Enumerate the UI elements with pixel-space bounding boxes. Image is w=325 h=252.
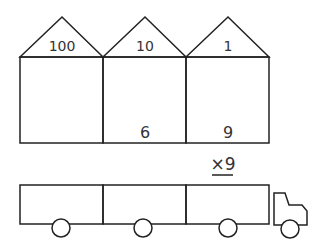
place-label-hundreds: 100 xyxy=(49,38,76,54)
place-label-tens: 10 xyxy=(136,38,154,54)
digit-ones: 9 xyxy=(223,123,233,142)
wheel-icon xyxy=(281,220,299,238)
wheel-icon xyxy=(219,219,237,237)
house-hundreds xyxy=(20,57,103,143)
truck-compartment-3 xyxy=(186,185,269,224)
place-value-diagram: 100 10 1 6 9 ×9 xyxy=(0,0,325,252)
digit-tens: 6 xyxy=(140,123,150,142)
truck-compartment-1 xyxy=(20,185,103,224)
truck-compartment-2 xyxy=(103,185,186,224)
place-label-ones: 1 xyxy=(224,38,233,54)
multiplier: ×9 xyxy=(210,154,235,174)
wheel-icon xyxy=(52,219,70,237)
wheel-icon xyxy=(134,219,152,237)
